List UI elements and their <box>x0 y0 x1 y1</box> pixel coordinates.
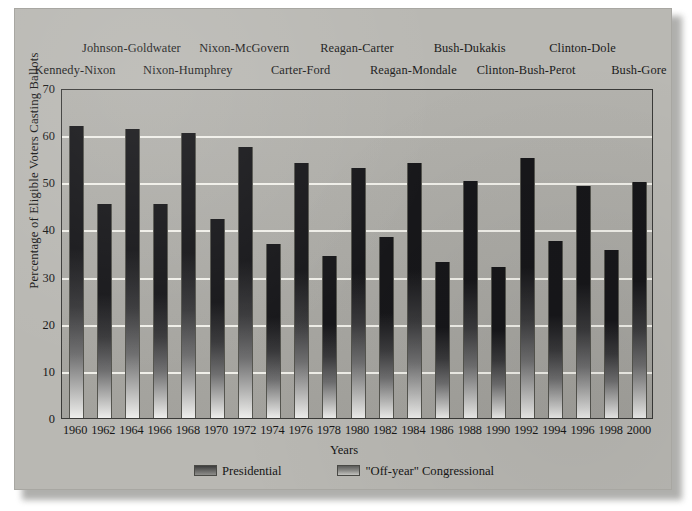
legend-label: Presidential <box>222 464 281 478</box>
bar-1972 <box>238 147 253 418</box>
x-axis-title: Years <box>15 443 672 458</box>
bar-1984 <box>407 163 422 418</box>
election-label: Kennedy-Nixon <box>35 63 116 78</box>
bar-1998 <box>604 250 619 418</box>
y-axis-tick-label: 50 <box>21 176 55 191</box>
legend-item: Presidential <box>194 464 281 479</box>
plot-area <box>61 89 653 419</box>
election-caption-row-bottom: Kennedy-NixonNixon-HumphreyCarter-FordRe… <box>15 63 672 83</box>
bar-1976 <box>294 163 309 418</box>
election-label: Bush-Gore <box>611 63 666 78</box>
x-axis-tick-label-2000: 2000 <box>627 423 651 438</box>
y-axis-tick-label: 70 <box>21 82 55 97</box>
legend-swatch-presidential <box>194 465 217 476</box>
x-axis-tick-label-1966: 1966 <box>148 423 172 438</box>
x-axis-tick-label-1998: 1998 <box>599 423 623 438</box>
x-axis-tick-label-1990: 1990 <box>486 423 510 438</box>
bar-1970 <box>210 219 225 418</box>
legend-item: "Off-year" Congressional <box>337 464 494 479</box>
bar-1994 <box>548 241 563 418</box>
election-label: Carter-Ford <box>271 63 330 78</box>
bar-chart-figure: Johnson-GoldwaterNixon-McGovernReagan-Ca… <box>14 8 672 490</box>
bar-1974 <box>266 244 281 418</box>
x-axis-tick-label-1964: 1964 <box>119 423 143 438</box>
bar-1968 <box>181 133 196 418</box>
bar-1986 <box>435 262 450 418</box>
election-label: Johnson-Goldwater <box>82 41 181 56</box>
y-axis-tick-label: 40 <box>21 223 55 238</box>
bar-1960 <box>69 126 84 418</box>
election-label: Nixon-McGovern <box>199 41 289 56</box>
x-axis-tick-label-1988: 1988 <box>458 423 482 438</box>
bar-1988 <box>463 181 478 418</box>
y-axis-tick-label: 20 <box>21 317 55 332</box>
y-axis-tick-label: 10 <box>21 364 55 379</box>
x-axis-tick-label-1984: 1984 <box>401 423 425 438</box>
election-label: Clinton-Dole <box>549 41 616 56</box>
x-axis-tick-label-1994: 1994 <box>542 423 566 438</box>
x-axis-tick-label-1972: 1972 <box>232 423 256 438</box>
legend-swatch-offyear <box>337 465 360 476</box>
election-label: Reagan-Mondale <box>370 63 457 78</box>
bar-1982 <box>379 237 394 418</box>
election-label: Clinton-Bush-Perot <box>477 63 576 78</box>
bar-1962 <box>97 204 112 418</box>
y-axis-tick-label: 60 <box>21 129 55 144</box>
election-label: Nixon-Humphrey <box>143 63 233 78</box>
bar-1990 <box>491 267 506 418</box>
bar-2000 <box>632 182 647 418</box>
bar-1966 <box>153 204 168 418</box>
x-axis-tick-label-1996: 1996 <box>570 423 594 438</box>
bar-1996 <box>576 186 591 418</box>
x-axis-tick-label-1970: 1970 <box>204 423 228 438</box>
chart-legend: Presidential"Off-year" Congressional <box>15 464 672 484</box>
x-axis-tick-label-1962: 1962 <box>91 423 115 438</box>
x-axis-tick-label-1978: 1978 <box>317 423 341 438</box>
plot-inner <box>62 90 652 418</box>
bar-1980 <box>351 168 366 418</box>
election-caption-row-top: Johnson-GoldwaterNixon-McGovernReagan-Ca… <box>15 41 672 61</box>
bar-1964 <box>125 129 140 418</box>
x-axis-tick-label-1980: 1980 <box>345 423 369 438</box>
election-label: Bush-Dukakis <box>434 41 506 56</box>
legend-label: "Off-year" Congressional <box>365 464 494 478</box>
x-axis-tick-label-1974: 1974 <box>260 423 284 438</box>
x-axis-tick-label-1976: 1976 <box>289 423 313 438</box>
y-axis-tick-label: 0 <box>21 412 55 427</box>
bar-1992 <box>520 158 535 418</box>
scanned-page: Johnson-GoldwaterNixon-McGovernReagan-Ca… <box>0 0 692 511</box>
bar-1978 <box>322 256 337 418</box>
x-axis-tick-label-1982: 1982 <box>373 423 397 438</box>
election-label: Reagan-Carter <box>320 41 394 56</box>
y-axis-tick-label: 30 <box>21 270 55 285</box>
x-axis-tick-label-1960: 1960 <box>63 423 87 438</box>
x-axis-tick-label-1986: 1986 <box>429 423 453 438</box>
x-axis-tick-label-1968: 1968 <box>176 423 200 438</box>
x-axis-tick-label-1992: 1992 <box>514 423 538 438</box>
gridline <box>62 136 652 138</box>
